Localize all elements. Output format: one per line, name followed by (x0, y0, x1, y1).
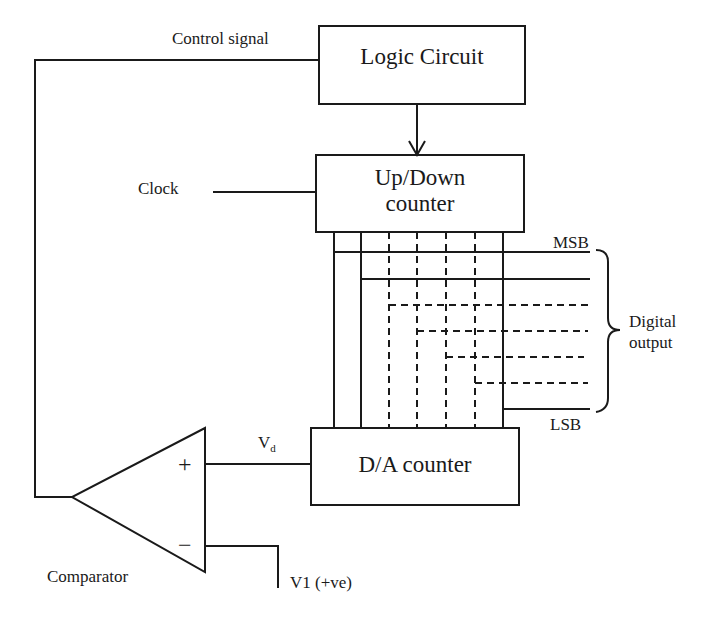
logic-circuit-label: Logic Circuit (319, 44, 525, 70)
dashed-bus (389, 232, 588, 428)
control-signal-label: Control signal (172, 30, 269, 47)
updown-counter-label: Up/Down counter (316, 165, 524, 217)
lsb-label: LSB (550, 416, 581, 433)
plus-sign: + (178, 452, 192, 476)
vd-subscript: d (270, 442, 276, 454)
da-counter-label: D/A counter (311, 452, 519, 478)
digital-output-line1: Digital (629, 311, 676, 332)
updown-counter-label-line1: Up/Down (316, 165, 524, 191)
v1-label: V1 (+ve) (290, 574, 352, 591)
brace-icon (596, 250, 620, 412)
digital-output-line2: output (629, 332, 676, 353)
minus-sign: − (178, 533, 192, 557)
control-signal-wire (35, 60, 319, 497)
comparator-label: Comparator (47, 568, 128, 585)
vd-main: V (258, 433, 270, 452)
updown-counter-label-line2: counter (316, 191, 524, 217)
digital-output-label: Digital output (629, 311, 676, 354)
msb-label: MSB (553, 234, 589, 251)
vd-label: Vd (258, 434, 276, 454)
v1-wire (205, 546, 278, 588)
diagram-canvas (0, 0, 712, 622)
clock-label: Clock (138, 180, 179, 197)
